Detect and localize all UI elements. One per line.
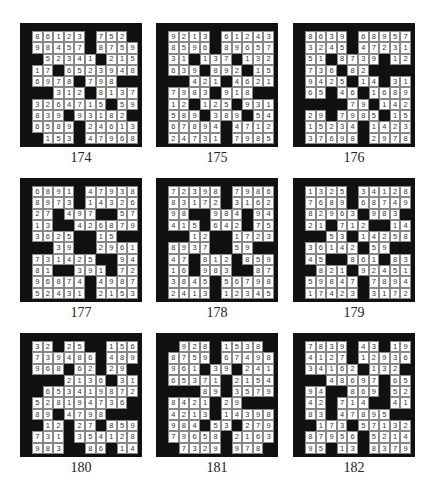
digit-cell: 9 bbox=[326, 209, 337, 220]
digit-cell: 3 bbox=[64, 386, 75, 397]
digit-cell: 7 bbox=[32, 352, 43, 363]
digit-cell: 5 bbox=[43, 54, 54, 65]
digit-cell: 7 bbox=[316, 288, 327, 299]
digit-cell: 6 bbox=[316, 197, 327, 208]
digit-cell: 9 bbox=[253, 352, 264, 363]
black-cell bbox=[64, 110, 75, 121]
black-cell bbox=[379, 65, 390, 76]
digit-cell: 5 bbox=[316, 254, 327, 265]
digit-cell: 2 bbox=[263, 197, 274, 208]
digit-cell: 4 bbox=[326, 288, 337, 299]
digit-cell: 1 bbox=[305, 186, 316, 197]
digit-cell: 6 bbox=[96, 443, 107, 454]
digit-cell: 2 bbox=[74, 87, 85, 98]
digit-cell: 7 bbox=[305, 65, 316, 76]
digit-cell: 8 bbox=[305, 209, 316, 220]
digit-cell: 2 bbox=[43, 397, 54, 408]
digit-cell: 8 bbox=[242, 254, 253, 265]
black-cell bbox=[117, 409, 128, 420]
black-cell bbox=[85, 87, 96, 98]
digit-cell: 3 bbox=[127, 121, 138, 132]
black-cell bbox=[379, 254, 390, 265]
digit-cell: 4 bbox=[96, 197, 107, 208]
digit-cell: 4 bbox=[326, 42, 337, 53]
black-cell bbox=[168, 443, 179, 454]
digit-cell: 7 bbox=[390, 443, 401, 454]
digit-cell: 5 bbox=[326, 231, 337, 242]
digit-cell: 9 bbox=[32, 276, 43, 287]
digit-cell: 8 bbox=[316, 341, 327, 352]
puzzle-grid: 8612375298457875952341215176523948697879… bbox=[32, 31, 138, 144]
black-cell bbox=[379, 341, 390, 352]
digit-cell: 8 bbox=[168, 242, 179, 253]
digit-cell: 6 bbox=[74, 364, 85, 375]
puzzle-number: 174 bbox=[20, 150, 142, 166]
digit-cell: 1 bbox=[96, 110, 107, 121]
black-cell bbox=[32, 386, 43, 397]
digit-cell: 6 bbox=[210, 220, 221, 231]
digit-cell: 7 bbox=[242, 231, 253, 242]
black-cell bbox=[74, 76, 85, 87]
digit-cell: 4 bbox=[253, 288, 264, 299]
digit-cell: 8 bbox=[106, 386, 117, 397]
digit-cell: 5 bbox=[369, 110, 380, 121]
digit-cell: 8 bbox=[96, 409, 107, 420]
black-cell bbox=[64, 431, 75, 442]
digit-cell: 2 bbox=[106, 54, 117, 65]
black-cell bbox=[53, 409, 64, 420]
digit-cell: 9 bbox=[189, 65, 200, 76]
black-cell bbox=[305, 420, 316, 431]
black-cell bbox=[221, 443, 232, 454]
digit-cell: 4 bbox=[64, 409, 75, 420]
black-cell bbox=[347, 352, 358, 363]
digit-cell: 3 bbox=[210, 364, 221, 375]
black-cell bbox=[263, 341, 274, 352]
black-cell bbox=[168, 386, 179, 397]
digit-cell: 7 bbox=[74, 99, 85, 110]
puzzle-176: 8639689573245472315187391273682942514316… bbox=[293, 23, 415, 166]
digit-cell: 1 bbox=[200, 397, 211, 408]
black-cell bbox=[263, 397, 274, 408]
black-cell bbox=[263, 242, 274, 253]
digit-cell: 6 bbox=[200, 42, 211, 53]
digit-cell: 6 bbox=[379, 87, 390, 98]
black-cell bbox=[369, 99, 380, 110]
digit-cell: 7 bbox=[316, 431, 327, 442]
digit-cell: 2 bbox=[189, 397, 200, 408]
digit-cell: 3 bbox=[64, 54, 75, 65]
digit-cell: 3 bbox=[305, 242, 316, 253]
digit-cell: 7 bbox=[232, 186, 243, 197]
digit-cell: 7 bbox=[253, 220, 264, 231]
digit-cell: 1 bbox=[64, 397, 75, 408]
digit-cell: 8 bbox=[96, 87, 107, 98]
black-cell bbox=[369, 220, 380, 231]
digit-cell: 3 bbox=[200, 87, 211, 98]
puzzle-grid: 3225156739486489968622921363165341987252… bbox=[32, 341, 138, 454]
digit-cell: 6 bbox=[253, 197, 264, 208]
digit-cell: 7 bbox=[85, 420, 96, 431]
digit-cell: 3 bbox=[305, 42, 316, 53]
digit-cell: 7 bbox=[106, 42, 117, 53]
digit-cell: 9 bbox=[400, 197, 411, 208]
black-cell bbox=[326, 397, 337, 408]
digit-cell: 7 bbox=[189, 133, 200, 144]
black-cell bbox=[242, 397, 253, 408]
digit-cell: 8 bbox=[369, 197, 380, 208]
black-cell bbox=[96, 209, 107, 220]
digit-cell: 2 bbox=[347, 364, 358, 375]
digit-cell: 2 bbox=[106, 364, 117, 375]
digit-cell: 8 bbox=[168, 352, 179, 363]
digit-cell: 8 bbox=[43, 443, 54, 454]
digit-cell: 8 bbox=[305, 31, 316, 42]
black-cell bbox=[210, 242, 221, 253]
digit-cell: 3 bbox=[326, 31, 337, 42]
digit-cell: 8 bbox=[32, 197, 43, 208]
digit-cell: 5 bbox=[337, 42, 348, 53]
digit-cell: 3 bbox=[210, 110, 221, 121]
black-cell bbox=[64, 443, 75, 454]
digit-cell: 6 bbox=[326, 133, 337, 144]
digit-cell: 3 bbox=[43, 254, 54, 265]
digit-cell: 1 bbox=[117, 121, 128, 132]
digit-cell: 3 bbox=[400, 121, 411, 132]
digit-cell: 8 bbox=[53, 364, 64, 375]
